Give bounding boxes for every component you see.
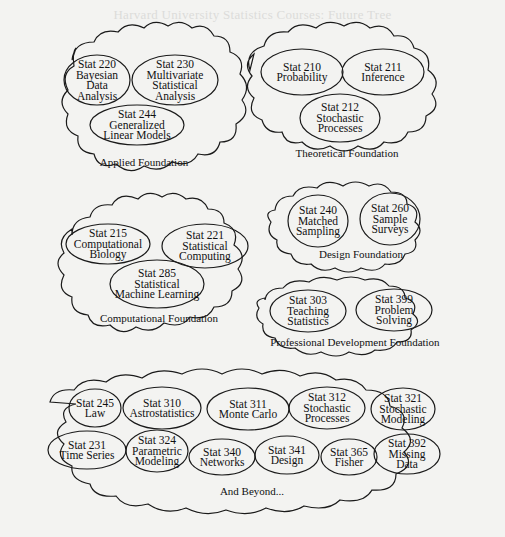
course-title: Surveys [371,224,408,235]
foundation-label-design: Design Foundation [319,248,403,260]
course-stat-240: Stat 240 Matched Sampling [288,195,348,247]
course-title: Analysis [77,91,117,102]
course-title: Analysis [155,91,195,102]
course-title: Design [271,455,304,466]
course-title: Networks [200,457,245,468]
course-title: Inference [361,72,404,83]
course-stat-215: Stat 215 Computational Biology [66,224,150,264]
course-title: Data [86,80,108,91]
course-title: Linear Models [103,130,170,141]
course-title: Modeling [135,456,180,467]
course-stat-392: Stat 392 Missing Data [374,434,440,474]
course-stat-210: Stat 210 Probability [261,49,343,95]
course-title: Monte Carlo [219,409,277,420]
course-stat-312: Stat 312 Stochastic Processes [289,387,365,429]
course-stat-230: Stat 230 Multivariate Statistical Analys… [132,55,218,105]
course-stat-303: Stat 303 Teaching Statistics [270,290,346,332]
course-title: Law [85,408,105,419]
course-title: Data [396,459,418,470]
course-title: Statistics [287,316,329,327]
course-title: Fisher [335,457,364,468]
course-stat-285: Stat 285 Statistical Machine Learning [110,260,204,308]
course-title: Biology [89,249,126,260]
course-title: Astrostatistics [129,408,194,419]
course-stat-324: Stat 324 Parametric Modeling [126,430,188,472]
course-title: Time Series [60,450,115,461]
foundation-label-professional: Professional Development Foundation [270,336,439,348]
foundation-label-theoretical: Theoretical Foundation [296,147,399,159]
course-title: Solving [376,315,412,326]
course-number: Stat 220 [78,59,116,70]
course-stat-340: Stat 340 Networks [189,439,255,475]
course-title: Statistical [152,80,197,91]
course-stat-310: Stat 310 Astrostatistics [123,387,201,429]
course-title: Processes [305,413,350,424]
course-stat-365: Stat 365 Fisher [321,439,377,475]
course-stat-321: Stat 321 Stochastic Modeling [371,388,435,430]
course-title: Machine Learning [115,289,200,300]
course-stat-260: Stat 260 Sample Surveys [360,193,420,245]
foundation-label-beyond: And Beyond... [220,485,284,497]
course-title: Probability [276,72,327,83]
course-number: Stat 230 [156,59,194,70]
foundation-label-applied: Applied Foundation [100,156,188,168]
course-stat-341: Stat 341 Design [255,436,319,474]
course-title: Modeling [381,414,426,425]
course-stat-220: Stat 220 Bayesian Data Analysis [64,55,130,105]
course-stat-311: Stat 311 Monte Carlo [207,388,289,430]
course-stat-245: Stat 245 Law [69,389,121,427]
foundation-label-computational: Computational Foundation [100,312,218,324]
course-stat-399: Stat 399 Problem Solving [356,289,432,331]
course-stat-211: Stat 211 Inference [342,49,424,95]
course-stat-231: Stat 231 Time Series [48,431,126,469]
course-stat-244: Stat 244 Generalized Linear Models [90,105,184,145]
course-stat-212: Stat 212 Stochastic Processes [300,94,380,142]
course-title: Processes [318,123,363,134]
course-title: Sampling [296,226,340,237]
